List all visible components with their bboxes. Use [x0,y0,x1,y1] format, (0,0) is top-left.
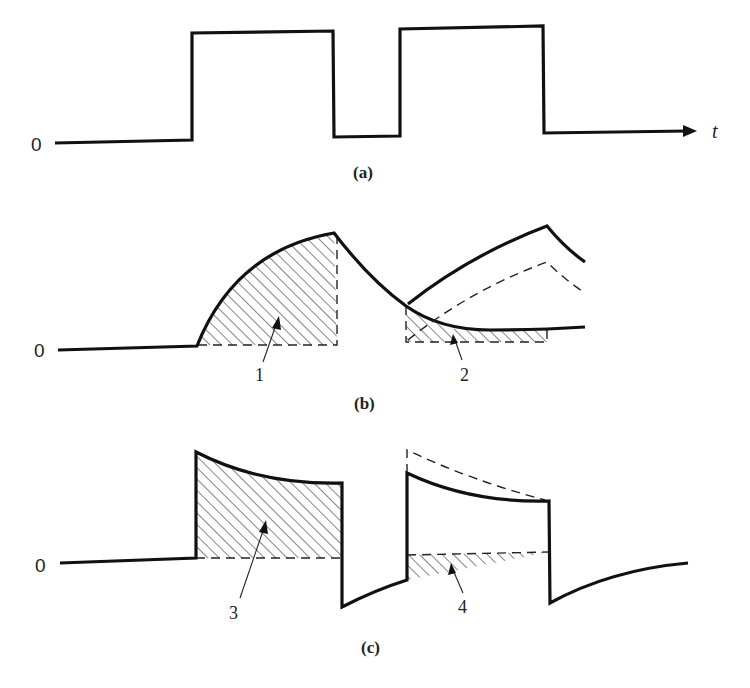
panel-c: 0 3 4 (c) [35,450,688,657]
response-curve-c [60,452,688,607]
panel-c-caption: (c) [361,638,380,657]
area-3-label: 3 [229,603,238,623]
shaded-area-1 [198,233,337,345]
panel-b-zero-label: 0 [34,340,45,361]
shaded-area-2 [406,306,547,342]
panel-b-caption: (b) [354,394,375,413]
panel-a: 0 t (a) [31,26,718,182]
area-2-label: 2 [460,365,469,385]
shaded-area-3 [196,452,342,558]
panel-a-caption: (a) [353,163,373,182]
panel-c-zero-label: 0 [35,555,46,576]
panel-a-zero-label: 0 [31,134,42,155]
area-4-label: 4 [458,597,467,617]
shaded-area-4 [407,552,549,580]
upper-branch-b [408,226,585,304]
leader-area-4 [453,570,463,593]
pulse-response-diagram: 0 t (a) 0 1 2 (b) 0 [0,0,750,688]
panel-b: 0 1 2 (b) [34,226,585,413]
input-pulse-train [55,26,688,143]
time-axis-arrow-icon [683,125,697,137]
time-axis-label: t [712,120,718,142]
area-1-label: 1 [255,365,264,385]
dashed-envelope-c [407,450,545,500]
